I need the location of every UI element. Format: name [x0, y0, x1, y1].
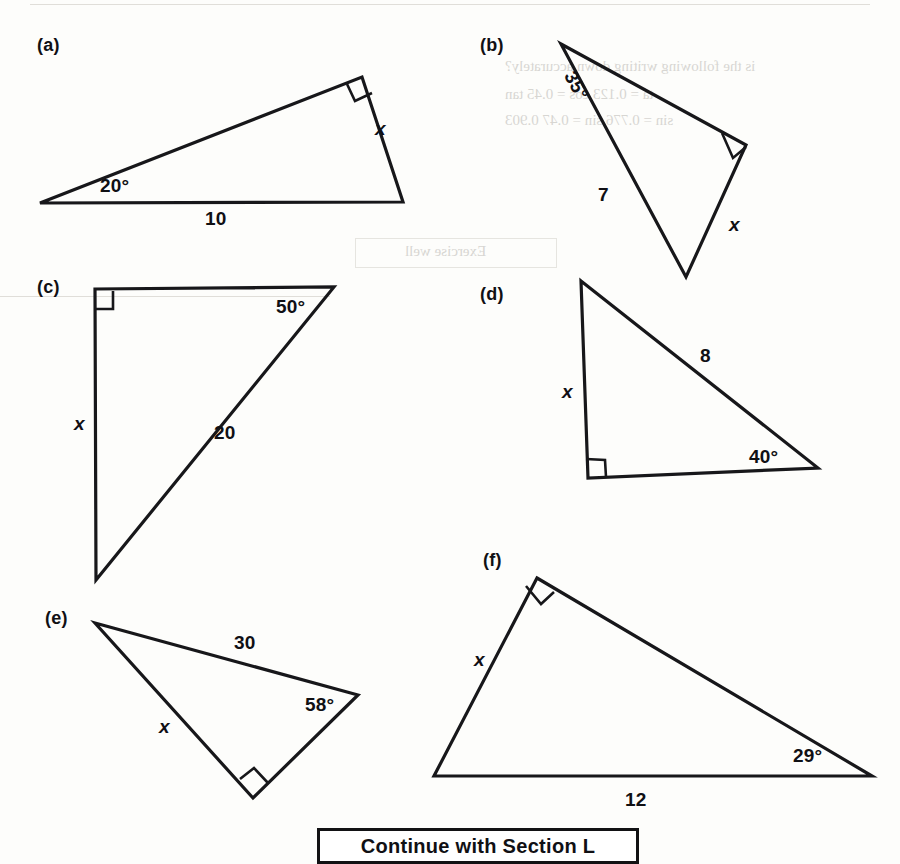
unknown-label-x-e: x: [159, 717, 170, 736]
part-label-c: (c): [37, 278, 60, 296]
angle-label-40: 40°: [749, 447, 778, 466]
part-label-e: (e): [45, 609, 68, 627]
unknown-label-x-b: x: [729, 215, 740, 234]
triangle-d: [581, 281, 818, 478]
side-label-20: 20: [214, 423, 236, 442]
triangle-a: [40, 77, 403, 203]
unknown-label-x-c: x: [74, 414, 85, 433]
side-label-7: 7: [598, 185, 609, 204]
part-label-b: (b): [480, 36, 504, 54]
part-label-d: (d): [480, 285, 504, 303]
continue-with-section-box[interactable]: Continue with Section L: [317, 828, 639, 864]
side-label-12: 12: [625, 790, 647, 809]
unknown-label-x-a: x: [375, 119, 386, 138]
angle-label-20: 20°: [100, 176, 129, 195]
part-label-f: (f): [483, 551, 502, 569]
side-label-8: 8: [700, 346, 711, 365]
side-label-30: 30: [234, 633, 256, 652]
angle-label-50: 50°: [276, 297, 305, 316]
unknown-label-x-f: x: [474, 650, 485, 669]
angle-label-58: 58°: [305, 695, 334, 714]
continue-with-section-label: Continue with Section L: [361, 835, 596, 858]
triangle-b: [561, 44, 746, 277]
unknown-label-x-d: x: [562, 382, 573, 401]
part-label-a: (a): [37, 36, 60, 54]
worksheet-page: is the following writing down accurately…: [0, 0, 900, 864]
angle-label-29: 29°: [793, 746, 822, 765]
side-label-10: 10: [205, 209, 227, 228]
figures-canvas: [0, 0, 900, 864]
